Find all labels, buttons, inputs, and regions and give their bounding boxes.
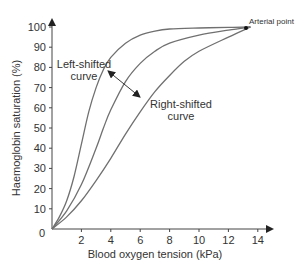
x-axis-ticks: 2468101214 — [78, 229, 264, 246]
y-tick-label: 30 — [34, 162, 46, 174]
x-tick-label: 2 — [78, 234, 84, 246]
right-shift-label-line1: Right-shifted — [150, 98, 212, 110]
x-tick-label: 8 — [167, 234, 173, 246]
right-shift-label-line2: curve — [168, 110, 195, 122]
y-axis-ticks: 102030405060708090100 — [28, 21, 52, 215]
y-tick-label: 50 — [34, 122, 46, 134]
arterial-point-marker — [244, 26, 248, 30]
x-axis-title: Blood oxygen tension (kPa) — [88, 248, 223, 260]
y-tick-label: 20 — [34, 183, 46, 195]
x-tick-label: 14 — [252, 234, 264, 246]
x-tick-label: 10 — [193, 234, 205, 246]
y-tick-label: 10 — [34, 203, 46, 215]
left-shift-label-line2: curve — [71, 70, 98, 82]
origin-label: 0 — [39, 227, 45, 239]
left-shift-label-line1: Left-shifted — [57, 58, 111, 70]
x-tick-label: 4 — [108, 234, 114, 246]
oxygen-dissociation-chart: 102030405060708090100 2468101214 0 Left-… — [0, 0, 305, 269]
shift-arrow-icon — [108, 71, 140, 97]
y-tick-label: 80 — [34, 61, 46, 73]
x-tick-label: 12 — [222, 234, 234, 246]
y-tick-label: 40 — [34, 142, 46, 154]
y-tick-label: 70 — [34, 82, 46, 94]
arterial-point-label: Arterial point — [249, 17, 295, 26]
y-axis-title: Haemoglobin saturation (%) — [10, 60, 22, 196]
x-tick-label: 6 — [137, 234, 143, 246]
y-tick-label: 60 — [34, 102, 46, 114]
y-tick-label: 90 — [34, 41, 46, 53]
y-tick-label: 100 — [28, 21, 46, 33]
